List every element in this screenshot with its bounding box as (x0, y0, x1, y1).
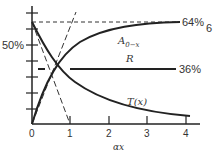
label-R: R (126, 53, 134, 64)
x-tick-4: 4 (183, 128, 189, 139)
label-64: 64% (182, 16, 204, 28)
label-A: A0−x (118, 35, 140, 49)
x-axis-label: αx (113, 142, 124, 152)
x-tick-2: 2 (106, 128, 112, 139)
x-tick-1: 1 (67, 128, 73, 139)
y-label-50: 50% (2, 39, 24, 51)
label-36: 36% (179, 63, 201, 75)
x-tick-3: 3 (144, 128, 150, 139)
x-ticks (70, 116, 186, 124)
side-label: 6 (206, 22, 212, 34)
A-curve (32, 22, 180, 124)
label-T: T(x) (127, 96, 147, 107)
x-tick-0: 0 (29, 128, 35, 139)
